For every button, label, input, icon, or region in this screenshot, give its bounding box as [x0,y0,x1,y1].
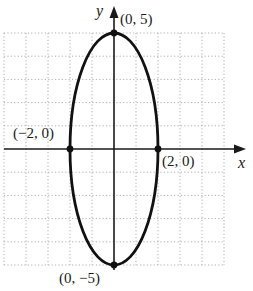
x-axis-label: x [237,154,245,171]
left-covertex-label: (−2, 0) [13,125,54,142]
point-top-vertex [111,30,118,37]
point-left-covertex [67,146,74,153]
top-vertex-label: (0, 5) [120,11,153,28]
y-axis-label: y [94,2,104,20]
bottom-vertex-label: (0, −5) [59,270,100,287]
y-axis-arrow-icon [110,6,119,18]
ellipse-graph: y x (0, 5) (0, −5) (−2, 0) (2, 0) [0,0,253,291]
x-axis-arrow-icon [234,145,246,154]
point-right-covertex [155,146,162,153]
right-covertex-label: (2, 0) [162,153,195,170]
point-bottom-vertex [111,262,118,269]
